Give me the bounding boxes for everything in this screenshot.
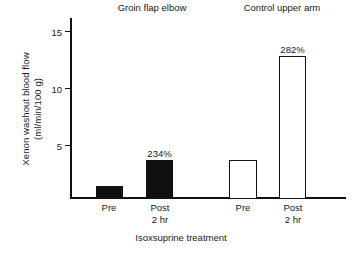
plot-area: 15 10 5 Groin flap elbow Control upper a… (70, 18, 346, 199)
x-tick-label-control-post-2hr-line-1: Post (283, 202, 302, 213)
y-tick-5: 5 (65, 145, 70, 146)
x-tick-label-control-post-2hr: Post 2 hr (283, 202, 302, 225)
y-axis-line (70, 18, 72, 199)
group-title-groin-flap-elbow: Groin flap elbow (118, 2, 187, 13)
y-axis-title: Xenon washout blood flow (ml/min/100 g) (14, 18, 48, 200)
x-tick-label-groin-post-2hr-line-1: Post (150, 202, 169, 213)
y-tick-15: 15 (65, 31, 70, 32)
bar-value-control-post-2hr: 282% (280, 44, 304, 55)
y-tick-label-15: 15 (51, 26, 62, 37)
bar-control-pre (229, 160, 257, 199)
y-tick-label-10: 10 (51, 83, 62, 94)
y-axis-title-text: Xenon washout blood flow (ml/min/100 g) (20, 52, 43, 165)
x-tick-label-control-pre: Pre (236, 202, 251, 214)
bar-groin-pre (96, 186, 123, 199)
x-tick-label-groin-pre: Pre (102, 202, 117, 214)
bar-groin-post-2hr: 234% (146, 160, 173, 199)
y-axis-title-line-1: Xenon washout blood flow (20, 52, 32, 165)
x-tick-label-control-post-2hr-line-2: 2 hr (283, 214, 302, 226)
x-tick-label-groin-post-2hr: Post 2 hr (150, 202, 169, 225)
x-tick-label-control-pre-line-1: Pre (236, 202, 251, 213)
bar-control-post-2hr: 282% (279, 56, 306, 199)
y-tick-10: 10 (65, 88, 70, 89)
chart-figure: Xenon washout blood flow (ml/min/100 g) … (0, 0, 362, 258)
x-axis-title: Isoxsuprine treatment (0, 232, 362, 243)
bar-value-groin-post-2hr: 234% (147, 148, 171, 159)
y-axis-title-line-2: (ml/min/100 g) (31, 52, 43, 165)
x-tick-label-groin-pre-line-1: Pre (102, 202, 117, 213)
x-tick-label-groin-post-2hr-line-2: 2 hr (150, 214, 169, 226)
group-title-control-upper-arm: Control upper arm (244, 2, 321, 13)
y-tick-label-5: 5 (57, 140, 62, 151)
